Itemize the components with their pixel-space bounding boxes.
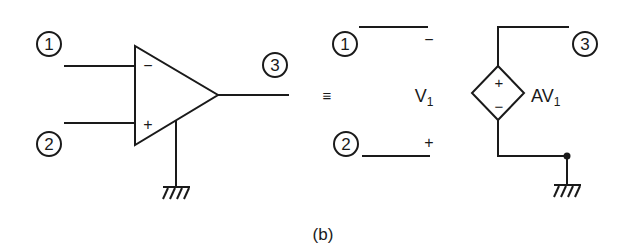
node-2-label: 2 <box>44 135 53 154</box>
node-1-label: 1 <box>44 35 53 54</box>
equivalence-symbol: ≡ <box>323 87 332 104</box>
noninverting-sign: + <box>143 116 152 133</box>
eq-node-2-label: 2 <box>341 135 350 154</box>
figure-caption: (b) <box>313 225 334 244</box>
node-3-label: 3 <box>270 56 279 75</box>
eq-top-sign: − <box>424 31 433 48</box>
eq-node-1-label: 1 <box>340 35 349 54</box>
eq-node-3-label: 3 <box>580 35 589 54</box>
source-minus-sign: − <box>495 98 504 115</box>
eq-bottom-sign: + <box>424 134 433 151</box>
opamp-equivalent-circuit-diagram: 1 2 3 − + ≡ 1 − V1 2 + 3 <box>0 0 627 252</box>
eq-output-wire <box>498 27 569 66</box>
equivalent-circuit: 1 − V1 2 + 3 + − AV1 <box>333 27 597 197</box>
ground-icon <box>163 187 190 199</box>
source-gain-label: AV1 <box>531 86 561 109</box>
eq-ground-wire <box>498 120 567 156</box>
input-voltage-label: V1 <box>415 86 434 109</box>
source-plus-sign: + <box>495 74 504 91</box>
inverting-sign: − <box>143 57 152 74</box>
ground-icon <box>554 185 581 197</box>
opamp-circuit: 1 2 3 − + <box>37 32 289 199</box>
